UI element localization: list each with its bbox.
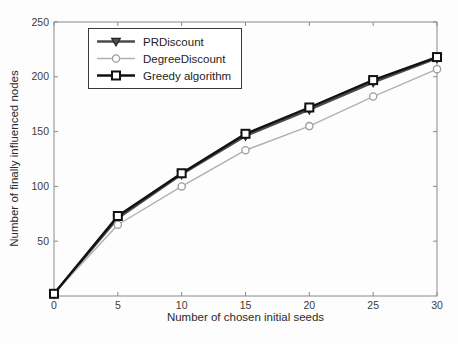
square-marker-icon (369, 76, 377, 84)
x-tick-label: 20 (303, 299, 315, 311)
x-tick-label: 30 (431, 299, 443, 311)
square-marker-icon (242, 130, 250, 138)
y-tick-label: 150 (31, 125, 49, 137)
circle-marker-icon (178, 183, 185, 190)
legend-item-greedy-algorithm: Greedy algorithm (96, 67, 231, 84)
x-tick-label: 15 (240, 299, 252, 311)
square-marker-icon (433, 53, 441, 61)
y-tick-label: 200 (31, 70, 49, 82)
square-marker-icon (114, 212, 122, 220)
x-tick-label: 10 (176, 299, 188, 311)
x-tick-label: 5 (115, 299, 121, 311)
circle-marker-icon (242, 147, 249, 154)
circle-marker-icon (112, 55, 119, 62)
y-tick-label: 50 (37, 235, 49, 247)
series-markers-degreediscount (50, 66, 440, 298)
x-tick-label: 25 (367, 299, 379, 311)
legend-label: Greedy algorithm (143, 70, 231, 82)
circle-marker-icon (114, 221, 121, 228)
circle-marker-icon (370, 93, 377, 100)
legend-label: PRDiscount (143, 36, 204, 48)
legend-item-degreediscount: DegreeDiscount (96, 50, 231, 67)
legend-swatch-circle-icon (96, 52, 136, 65)
series-markers-prdiscount (50, 55, 442, 298)
y-axis-label: Number of finally influenced nodes (8, 34, 21, 284)
series-markers-greedy-algorithm (50, 53, 441, 298)
line-chart-figure: 05101520253050100150200250 Number of fin… (0, 0, 458, 344)
x-tick-label: 0 (51, 299, 57, 311)
legend: PRDiscount DegreeDiscount Greedy algorit… (88, 28, 242, 89)
square-marker-icon (178, 169, 186, 177)
legend-swatch-square-icon (96, 69, 136, 82)
y-tick-label: 100 (31, 180, 49, 192)
legend-item-prdiscount: PRDiscount (96, 33, 231, 50)
legend-label: DegreeDiscount (143, 53, 225, 65)
circle-marker-icon (433, 66, 440, 73)
series-line-degreediscount (54, 69, 437, 294)
x-axis-label: Number of chosen initial seeds (54, 311, 437, 324)
square-marker-icon (50, 290, 58, 298)
square-marker-icon (112, 72, 120, 80)
series-line-greedy-algorithm (54, 57, 437, 294)
square-marker-icon (305, 103, 313, 111)
circle-marker-icon (306, 123, 313, 130)
y-tick-label: 250 (31, 16, 49, 28)
legend-swatch-triangle-icon (96, 35, 136, 48)
